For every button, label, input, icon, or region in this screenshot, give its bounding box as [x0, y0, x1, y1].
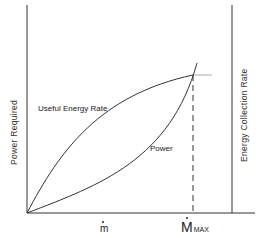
x-tick-mdot: m	[100, 224, 108, 234]
mdot-dot	[102, 221, 104, 223]
y-axis-label: Power Required	[10, 100, 19, 165]
x-tick-mmax-main: M	[181, 219, 193, 235]
diagram-canvas	[0, 0, 261, 238]
x-tick-mmax-sub: MAX	[194, 226, 209, 233]
mmax-dot	[186, 217, 188, 219]
power-curve	[27, 63, 197, 213]
x-tick-mdot-text: m	[100, 223, 108, 234]
x-tick-mmax: MMAX	[181, 220, 209, 234]
power-label: Power	[150, 145, 173, 153]
useful-energy-rate-label: Useful Energy Rate	[38, 105, 107, 113]
right-axis-label: Energy Collection Rate	[240, 68, 249, 162]
